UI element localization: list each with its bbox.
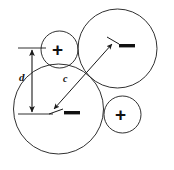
diagram-canvas xyxy=(0,0,174,170)
dimension-c-end-tick-upper-right xyxy=(107,37,119,44)
plus-sign-lower-right: + xyxy=(115,105,126,124)
dimension-c-end-tick-lower-left xyxy=(49,109,63,114)
large-circle-lower-left xyxy=(14,64,104,154)
physics-circle-diagram: + + d c xyxy=(0,0,174,170)
minus-sign-lower-left xyxy=(64,111,80,114)
dimension-label-d: d xyxy=(19,72,25,83)
plus-sign-upper-left: + xyxy=(52,40,63,59)
minus-sign-upper-right xyxy=(119,44,135,47)
dimension-label-c: c xyxy=(63,74,67,84)
large-circle-upper-right xyxy=(78,9,157,88)
